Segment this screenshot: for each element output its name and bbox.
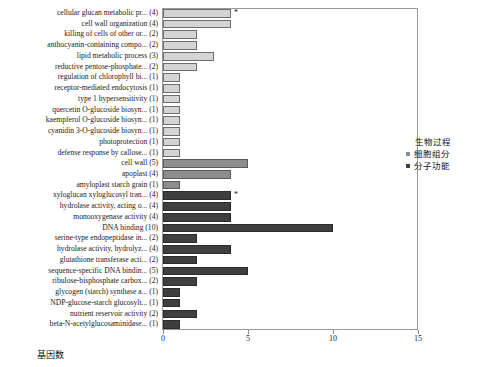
bar xyxy=(163,149,180,158)
bar-row-label: ribulose-bisphosphate carbox... (2) xyxy=(52,275,158,286)
bar xyxy=(163,95,180,104)
bar-row-label: quercetin O-glucoside biosyn... (1) xyxy=(52,104,158,115)
bar xyxy=(163,127,180,136)
bar-row-label: serine-type endopeptidase in... (2) xyxy=(55,232,158,243)
bar-row: cellular glucan metabolic pr... (4)* xyxy=(0,8,480,19)
bar xyxy=(163,224,333,233)
bar xyxy=(163,310,197,319)
bar-row-label: nutrient reservoir activity (2) xyxy=(70,308,158,319)
legend-item[interactable]: 细胞组分 xyxy=(406,148,478,160)
bar-row-label: glutathione transferase acti... (2) xyxy=(60,254,158,265)
bar xyxy=(163,320,180,329)
bar xyxy=(163,213,231,222)
bar xyxy=(163,181,180,190)
bar-row-label: sequence-specific DNA bindin... (5) xyxy=(48,265,158,276)
bar-row: monooxygenase activity (4) xyxy=(0,212,480,223)
bar-row-label: killing of cells of other or... (2) xyxy=(64,28,158,39)
bar xyxy=(163,30,197,39)
bar xyxy=(163,106,180,115)
bar-row-label: reductive pentose-phosphate... (2) xyxy=(55,61,158,72)
bar-row-label: receptor-mediated endocytosis (1) xyxy=(54,82,158,93)
significance-star: * xyxy=(234,7,238,18)
x-axis-tick-label: 15 xyxy=(414,334,422,344)
go-enrichment-bar-chart: cellular glucan metabolic pr... (4)*cell… xyxy=(0,0,480,367)
legend-items: 细胞组分分子功能 xyxy=(406,148,478,172)
bar-row-label: cell wall (5) xyxy=(121,157,158,168)
bar-row-label: regulation of chlorophyll bi... (1) xyxy=(58,71,158,82)
x-axis-tick-label: 0 xyxy=(161,334,165,344)
x-axis-tick-label: 10 xyxy=(329,334,337,344)
legend-title: 生物过程 xyxy=(406,136,478,148)
x-axis-tick-label: 5 xyxy=(246,334,250,344)
bar xyxy=(163,191,231,200)
legend-swatch-icon xyxy=(406,164,410,168)
bar xyxy=(163,202,231,211)
bar-row-label: defense response by callose... (1) xyxy=(57,147,158,158)
bar-row-label: apoplast (4) xyxy=(122,168,158,179)
legend-swatch-icon xyxy=(406,152,410,156)
bar-row-label: monooxygenase activity (4) xyxy=(73,211,158,222)
bar xyxy=(163,234,197,243)
bar xyxy=(163,84,180,93)
x-axis-title-text: 基因数 xyxy=(37,350,64,360)
bar xyxy=(163,170,231,179)
bar-row: beta-N-acetylglucosaminidase... (1) xyxy=(0,319,480,330)
bar-row-label: anthocyanin-containing compo... (2) xyxy=(47,39,158,50)
bar xyxy=(163,277,197,286)
legend: 生物过程 细胞组分分子功能 xyxy=(406,136,478,172)
bar xyxy=(163,299,180,308)
bar xyxy=(163,41,197,50)
legend-item[interactable]: 分子功能 xyxy=(406,160,478,172)
bar-row-label: cell wall organization (4) xyxy=(82,18,158,29)
bar xyxy=(163,20,231,29)
bar-row-label: kaempferol O-glucoside biosyn... (1) xyxy=(46,114,158,125)
bar xyxy=(163,63,197,72)
bar-row-label: cellular glucan metabolic pr... (4) xyxy=(57,7,158,18)
bar xyxy=(163,288,180,297)
significance-star: * xyxy=(234,189,238,200)
bar-row: hydrolase activity, acting o... (4) xyxy=(0,201,480,212)
bar-row-label: xyloglucan xyloglucosyl tran... (4) xyxy=(53,189,158,200)
bar xyxy=(163,245,231,254)
bar xyxy=(163,9,231,18)
bar-row-label: beta-N-acetylglucosaminidase... (1) xyxy=(50,318,158,329)
bar-row-label: DNA binding (10) xyxy=(102,222,158,233)
bar-row-label: NDP-glucose-starch glucosylt... (1) xyxy=(50,297,158,308)
bar-row: anthocyanin-containing compo... (2) xyxy=(0,40,480,51)
x-axis-title: 基因数 xyxy=(0,348,480,361)
legend-item-label: 分子功能 xyxy=(414,160,450,172)
bar xyxy=(163,116,180,125)
bar xyxy=(163,267,248,276)
bar xyxy=(163,138,180,147)
bar-row-label: lipid metabolic process (3) xyxy=(77,50,158,61)
legend-item-label: 细胞组分 xyxy=(414,148,450,160)
bar-row-label: cyanidin 3-O-glucoside biosyn... (1) xyxy=(48,125,158,136)
bar-row-label: photoprotection (1) xyxy=(99,136,158,147)
bar xyxy=(163,159,248,168)
bar xyxy=(163,256,197,265)
bar-row-label: amyloplast starch grain (1) xyxy=(76,179,158,190)
bar-row-label: glycogen (starch) synthase a... (1) xyxy=(55,286,158,297)
bar-row: receptor-mediated endocytosis (1) xyxy=(0,83,480,94)
bar-row-label: hydrolase activity, hydrolyz... (4) xyxy=(57,243,158,254)
bar xyxy=(163,73,180,82)
bar xyxy=(163,52,214,61)
bar-row-label: hydrolase activity, acting o... (4) xyxy=(60,200,158,211)
bar-row-label: type 1 hypersensitivity (1) xyxy=(78,93,158,104)
